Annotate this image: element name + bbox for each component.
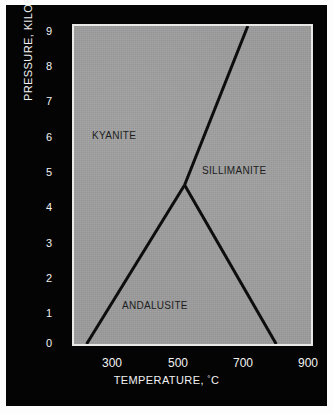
y-tick-label-8: 8 bbox=[36, 61, 52, 72]
phase-boundary-curves bbox=[74, 26, 311, 344]
y-tick-label-2: 2 bbox=[36, 273, 52, 284]
x-axis-title-text: TEMPERATURE, bbox=[114, 374, 208, 386]
region-label-kyanite: KYANITE bbox=[92, 130, 136, 141]
x-tick-label-900: 900 bbox=[288, 357, 328, 369]
x-tick-label-300: 300 bbox=[92, 357, 132, 369]
y-tick-label-9: 9 bbox=[36, 26, 52, 37]
phase-diagram-figure: PRESSURE, KILOBARS 9 8 7 6 5 4 3 2 1 0 3… bbox=[0, 0, 333, 414]
x-axis-unit: C bbox=[211, 374, 219, 386]
plot-frame: KYANITE SILLIMANITE ANDALUSITE bbox=[72, 24, 313, 346]
y-tick-label-0: 0 bbox=[36, 338, 52, 349]
curve-kyanite-sillimanite bbox=[185, 26, 248, 185]
y-tick-label-4: 4 bbox=[36, 202, 52, 213]
y-tick-label-6: 6 bbox=[36, 132, 52, 143]
plot-area: KYANITE SILLIMANITE ANDALUSITE bbox=[74, 26, 311, 344]
curve-andalusite-sillimanite bbox=[185, 185, 277, 344]
x-axis-title: TEMPERATURE, °C bbox=[0, 374, 333, 386]
x-tick-label-700: 700 bbox=[223, 357, 263, 369]
y-tick-label-7: 7 bbox=[36, 96, 52, 107]
region-label-andalusite: ANDALUSITE bbox=[122, 300, 188, 311]
y-axis-title: PRESSURE, KILOBARS bbox=[22, 0, 34, 101]
y-tick-label-3: 3 bbox=[36, 238, 52, 249]
region-label-sillimanite: SILLIMANITE bbox=[202, 165, 266, 176]
y-tick-label-5: 5 bbox=[36, 167, 52, 178]
curve-kyanite-andalusite bbox=[87, 185, 185, 344]
y-tick-label-1: 1 bbox=[36, 308, 52, 319]
x-tick-label-500: 500 bbox=[158, 357, 198, 369]
